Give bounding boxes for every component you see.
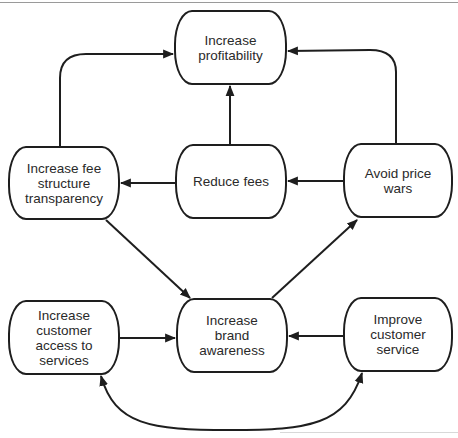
node-reduce-fees: Reduce fees <box>175 144 287 219</box>
diagram-canvas: Increase profitability Increase fee stru… <box>0 0 458 438</box>
edge-price-wars-to-profitability <box>288 50 396 143</box>
node-label: Increase customer access to services <box>35 308 92 368</box>
node-improve-customer-service: Improve customer service <box>343 297 453 372</box>
edge-transparency-to-brand-awareness <box>106 220 190 298</box>
node-label: Avoid price wars <box>365 166 432 196</box>
node-label: Increase profitability <box>198 33 263 63</box>
edge-brand-awareness-to-price-wars <box>272 220 357 298</box>
edge-customer-access-service-bidirectional <box>101 373 362 430</box>
node-label: Increase fee structure transparency <box>25 161 103 206</box>
edge-transparency-to-profitability <box>60 54 173 146</box>
node-avoid-price-wars: Avoid price wars <box>343 143 453 218</box>
node-increase-brand-awareness: Increase brand awareness <box>176 298 288 373</box>
node-increase-customer-access: Increase customer access to services <box>8 300 120 375</box>
node-increase-fee-structure-transparency: Increase fee structure transparency <box>8 146 120 220</box>
node-label: Improve customer service <box>370 312 426 357</box>
node-increase-profitability: Increase profitability <box>174 10 287 85</box>
node-label: Reduce fees <box>193 174 269 189</box>
node-label: Increase brand awareness <box>199 313 264 358</box>
